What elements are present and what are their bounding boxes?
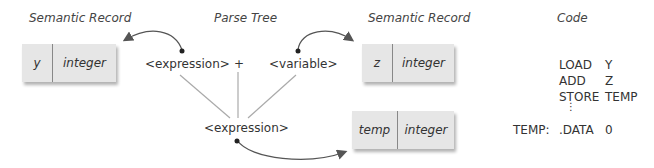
record-type: integer (53, 56, 116, 70)
plus-operator-node: + (234, 57, 244, 71)
right-record-heading: Semantic Record (368, 11, 470, 25)
semantic-record-temp: temp integer (352, 111, 454, 149)
expression-node-left: <expression> (145, 57, 230, 71)
code-op: .DATA (559, 123, 594, 137)
code-op: ADD (559, 74, 586, 88)
variable-node: <variable> (269, 57, 338, 71)
code-arg: Y (605, 58, 612, 72)
semantic-record-z: z integer (362, 44, 454, 82)
code-arg: TEMP (605, 90, 638, 104)
code-op: LOAD (559, 58, 592, 72)
code-heading: Code (557, 11, 588, 25)
code-arg: Z (605, 74, 613, 88)
semantic-record-y: y integer (22, 44, 116, 82)
code-label: TEMP: (513, 123, 550, 137)
code-arg: 0 (605, 123, 613, 137)
record-type: integer (393, 56, 454, 70)
record-name: z (362, 44, 393, 82)
left-record-heading: Semantic Record (29, 11, 131, 25)
code-ellipsis: ⋮ (566, 101, 576, 112)
record-name: temp (352, 111, 398, 149)
parse-tree-heading: Parse Tree (214, 11, 277, 25)
record-type: integer (398, 123, 454, 137)
expression-node-root: <expression> (204, 121, 289, 135)
record-name: y (22, 44, 53, 82)
diagram-connectors (0, 0, 654, 168)
